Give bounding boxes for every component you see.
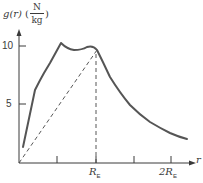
x-axis-arrow-icon — [189, 161, 196, 166]
re-sub: E — [97, 173, 101, 179]
y-tick-label-5: 5 — [6, 99, 12, 109]
gravity-curve — [23, 43, 187, 147]
re-main: R — [89, 166, 97, 177]
re2-sub: E — [173, 173, 177, 179]
y-unit-open-paren: ( — [25, 9, 29, 19]
y-unit-numerator: N — [30, 2, 44, 14]
x-tick-label-re: RE — [89, 167, 101, 179]
x-axis-label: r — [196, 155, 201, 165]
y-unit-fraction: N kg — [30, 2, 44, 25]
y-axis-label: g(r) — [3, 9, 22, 19]
y-axis-arrow-icon — [17, 29, 22, 36]
y-unit-close-paren: ) — [45, 9, 49, 19]
y-unit-denominator: kg — [30, 14, 44, 25]
chart-plot — [0, 0, 203, 183]
y-tick-label-10: 10 — [2, 41, 13, 51]
re2-main: 2R — [159, 166, 173, 177]
x-tick-label-2re: 2RE — [159, 167, 177, 179]
